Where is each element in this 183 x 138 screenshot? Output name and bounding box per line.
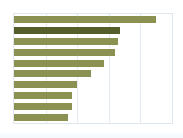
chart-screenshot xyxy=(0,0,183,138)
bar-1[interactable] xyxy=(14,16,156,23)
bar-7[interactable] xyxy=(14,81,77,88)
bar-6[interactable] xyxy=(14,70,91,77)
bar-4[interactable] xyxy=(14,49,115,56)
bar-3[interactable] xyxy=(14,38,118,45)
bar-10[interactable] xyxy=(14,114,68,121)
bar-2[interactable] xyxy=(14,27,120,34)
bars-group xyxy=(14,14,172,123)
bar-9[interactable] xyxy=(14,103,72,110)
bar-8[interactable] xyxy=(14,92,72,99)
bar-5[interactable] xyxy=(14,60,104,67)
plot-area xyxy=(13,13,173,124)
page-edge-tint xyxy=(0,130,183,138)
